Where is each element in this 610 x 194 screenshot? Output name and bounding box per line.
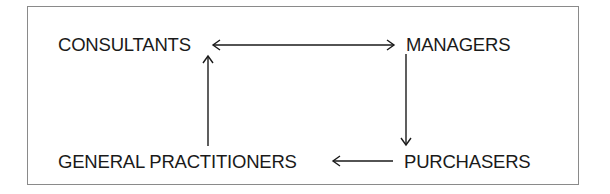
arrow-up-icon [203, 56, 213, 146]
arrow-down-icon [401, 54, 411, 145]
bidirectional-arrow-icon [213, 40, 394, 50]
arrows-layer [0, 0, 610, 194]
arrow-left-icon [333, 156, 393, 166]
